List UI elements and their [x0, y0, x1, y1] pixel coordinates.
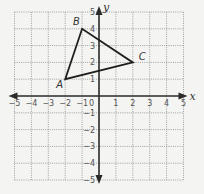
x-tick-label: −2 — [59, 99, 71, 108]
x-tick-label: −3 — [42, 99, 54, 108]
x-tick-label: 4 — [164, 99, 169, 108]
y-axis-down-arrow-icon — [96, 175, 103, 184]
y-tick-label: −2 — [83, 126, 95, 135]
y-tick-label: −3 — [83, 142, 95, 151]
x-tick-label: −4 — [26, 99, 38, 108]
y-axis-label: y — [102, 1, 110, 14]
x-tick-label: −1 — [76, 99, 88, 108]
y-tick-label: 1 — [90, 75, 95, 84]
y-tick-label: 4 — [90, 25, 95, 34]
origin-label: 0 — [89, 99, 94, 108]
x-axis-label: x — [190, 90, 197, 103]
vertex-label-c: C — [139, 51, 146, 62]
y-tick-label: 5 — [90, 8, 95, 17]
x-tick-label: 2 — [130, 99, 135, 108]
x-tick-label: 1 — [113, 99, 118, 108]
y-tick-label: −1 — [83, 109, 95, 118]
coordinate-plane: xy −5−4−3−2−112345−5−4−3−2−1123450 ABC — [0, 0, 204, 194]
y-axis-up-arrow-icon — [96, 6, 103, 15]
y-tick-label: 2 — [90, 58, 95, 67]
y-tick-label: 3 — [90, 42, 95, 51]
y-tick-label: −4 — [83, 159, 95, 168]
vertex-label-b: B — [73, 16, 80, 27]
vertex-label-a: A — [55, 79, 63, 90]
x-tick-label: 3 — [147, 99, 152, 108]
x-tick-label: 5 — [181, 99, 186, 108]
y-tick-label: −5 — [83, 176, 95, 185]
x-tick-label: −5 — [9, 99, 21, 108]
